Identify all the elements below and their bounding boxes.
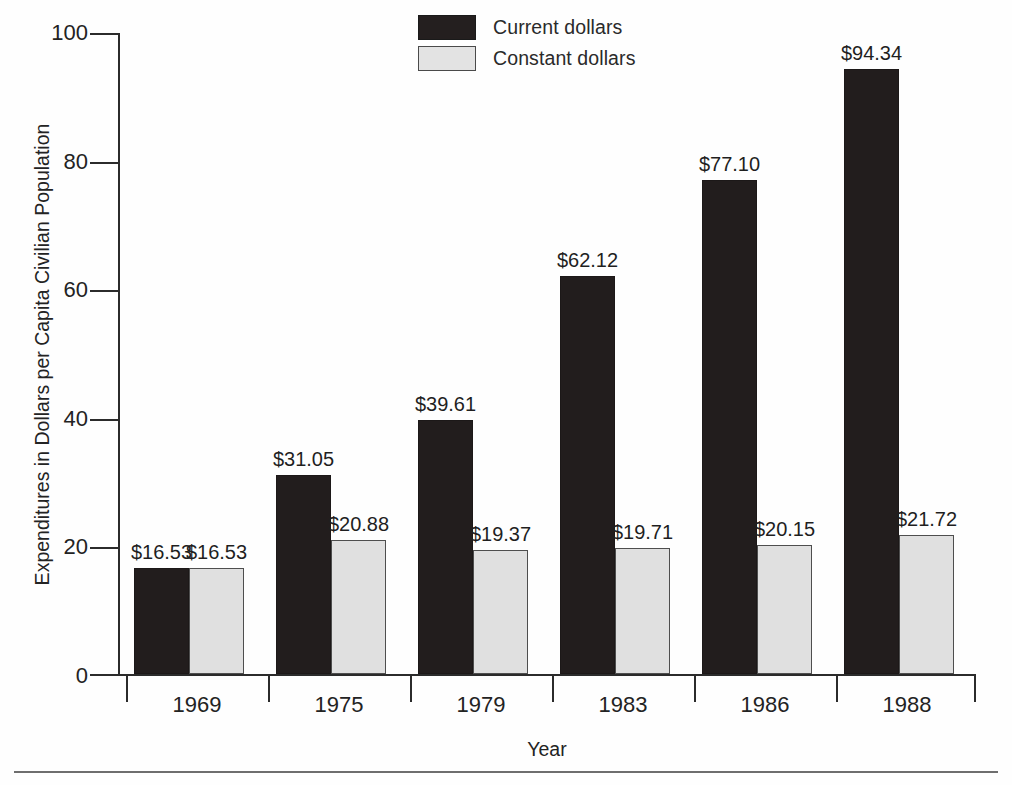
x-tick-label-1975: 1975	[269, 692, 409, 718]
bar-current-1983[interactable]: $62.12	[560, 276, 615, 674]
y-tick-label-20: 20	[18, 534, 88, 560]
bar-label-current-1975: $31.05	[273, 448, 334, 471]
bar-constant-1983[interactable]: $19.71	[615, 548, 670, 674]
y-tick-label-0: 0	[18, 663, 88, 689]
bar-constant-1979[interactable]: $19.37	[473, 550, 528, 674]
x-tick-label-1988: 1988	[837, 692, 977, 718]
y-tick-label-60: 60	[18, 277, 88, 303]
bar-current-1979[interactable]: $39.61	[418, 420, 473, 674]
y-tick-80	[90, 162, 118, 164]
bar-current-1975[interactable]: $31.05	[276, 475, 331, 674]
bar-constant-1988[interactable]: $21.72	[899, 535, 954, 674]
y-tick-0	[90, 674, 118, 676]
x-tick-label-1983: 1983	[553, 692, 693, 718]
bar-current-1988[interactable]: $94.34	[844, 69, 899, 674]
bar-label-current-1979: $39.61	[415, 393, 476, 416]
bar-label-constant-1983: $19.71	[612, 521, 673, 544]
y-tick-label-40: 40	[18, 406, 88, 432]
chart-figure: Current dollars Constant dollars Expendi…	[0, 0, 1012, 785]
y-tick-100	[90, 33, 118, 35]
bar-constant-1986[interactable]: $20.15	[757, 545, 812, 674]
footer-divider	[14, 771, 998, 773]
bar-current-1986[interactable]: $77.10	[702, 180, 757, 674]
bar-label-constant-1975: $20.88	[328, 513, 389, 536]
bar-label-constant-1979: $19.37	[470, 523, 531, 546]
y-tick-label-80: 80	[18, 149, 88, 175]
x-tick-label-1979: 1979	[411, 692, 551, 718]
bar-label-constant-1969: $16.53	[186, 541, 247, 564]
y-tick-label-100: 100	[18, 20, 88, 46]
bar-label-constant-1986: $20.15	[754, 518, 815, 541]
y-axis-line	[118, 33, 120, 676]
y-tick-60	[90, 290, 118, 292]
x-axis-tick-labels: 1969 1975 1979 1983 1986 1988	[118, 692, 976, 724]
bar-constant-1975[interactable]: $20.88	[331, 540, 386, 674]
x-tick-label-1986: 1986	[695, 692, 835, 718]
bar-label-current-1988: $94.34	[841, 42, 902, 65]
x-axis-line	[118, 674, 976, 676]
bar-label-constant-1988: $21.72	[896, 508, 957, 531]
bar-label-current-1983: $62.12	[557, 249, 618, 272]
bar-label-current-1986: $77.10	[699, 153, 760, 176]
plot-area: $16.53 $16.53 $31.05 $20.88 $39.61 $19.3…	[118, 33, 976, 676]
bar-label-current-1969: $16.53	[131, 541, 192, 564]
x-tick-label-1969: 1969	[127, 692, 267, 718]
y-tick-40	[90, 419, 118, 421]
bar-current-1969[interactable]: $16.53	[134, 568, 189, 674]
y-axis-title: Expenditures in Dollars per Capita Civil…	[24, 33, 60, 676]
bar-constant-1969[interactable]: $16.53	[189, 568, 244, 674]
x-axis-title: Year	[118, 738, 976, 761]
y-tick-20	[90, 547, 118, 549]
